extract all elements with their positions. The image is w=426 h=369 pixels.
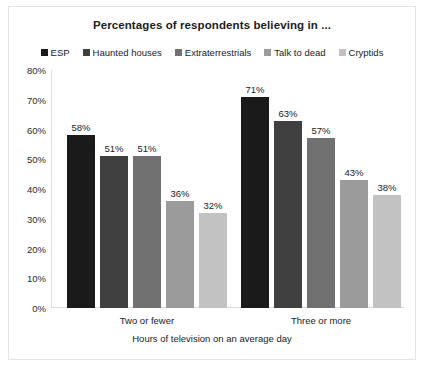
chart-card: Percentages of respondents believing in … — [8, 6, 416, 360]
plot-area: 80%70%60%50%40%30%20%10%0% 58%51%51%36%3… — [51, 70, 404, 308]
y-axis-tick-label: 10% — [27, 273, 46, 284]
legend-label: Haunted houses — [93, 48, 162, 58]
bar-cryptids[interactable]: 32% — [199, 70, 227, 308]
bar-value-label: 43% — [334, 167, 374, 178]
bar-talk-to-dead[interactable]: 43% — [340, 70, 368, 308]
legend-swatch-icon — [83, 49, 90, 56]
bar-value-label: 63% — [268, 108, 308, 119]
bar[interactable] — [133, 156, 161, 308]
bar[interactable] — [373, 195, 401, 308]
legend-swatch-icon — [264, 49, 271, 56]
bar-value-label: 32% — [193, 200, 233, 211]
category-label: Two or fewer — [67, 315, 227, 326]
legend-swatch-icon — [175, 49, 182, 56]
bar-value-label: 38% — [367, 182, 407, 193]
bar-group: 71%63%57%43%38%Three or more — [241, 70, 401, 308]
bar-haunted-houses[interactable]: 63% — [274, 70, 302, 308]
legend-item-extraterrestrials[interactable]: Extraterrestrials — [175, 48, 252, 58]
legend-item-haunted-houses[interactable]: Haunted houses — [83, 48, 162, 58]
legend-item-talk-to-dead[interactable]: Talk to dead — [264, 48, 325, 58]
bar-haunted-houses[interactable]: 51% — [100, 70, 128, 308]
legend-label: Cryptids — [349, 48, 384, 58]
y-axis-tick-label: 40% — [27, 184, 46, 195]
bar-value-label: 57% — [301, 125, 341, 136]
y-axis-tick-label: 0% — [32, 303, 46, 314]
x-axis-title: Hours of television on an average day — [9, 333, 415, 344]
bar[interactable] — [307, 138, 335, 308]
bar[interactable] — [67, 135, 95, 308]
y-axis-tick-label: 60% — [27, 124, 46, 135]
bar-esp[interactable]: 58% — [67, 70, 95, 308]
bar-value-label: 58% — [61, 122, 101, 133]
y-axis-tick-label: 20% — [27, 243, 46, 254]
legend-label: Talk to dead — [274, 48, 325, 58]
y-axis-tick-label: 30% — [27, 213, 46, 224]
y-axis-tick-label: 70% — [27, 94, 46, 105]
bar-group: 58%51%51%36%32%Two or fewer — [67, 70, 227, 308]
bar[interactable] — [199, 213, 227, 308]
bar-talk-to-dead[interactable]: 36% — [166, 70, 194, 308]
legend-label: Extraterrestrials — [185, 48, 252, 58]
bar-value-label: 71% — [235, 84, 275, 95]
bar-extraterrestrials[interactable]: 51% — [133, 70, 161, 308]
bar-cryptids[interactable]: 38% — [373, 70, 401, 308]
y-axis-tick-label: 80% — [27, 65, 46, 76]
bar[interactable] — [274, 121, 302, 308]
bar[interactable] — [100, 156, 128, 308]
bar-esp[interactable]: 71% — [241, 70, 269, 308]
bar-extraterrestrials[interactable]: 57% — [307, 70, 335, 308]
bar[interactable] — [340, 180, 368, 308]
bar[interactable] — [166, 201, 194, 308]
chart-title: Percentages of respondents believing in … — [9, 19, 415, 31]
bar-value-label: 36% — [160, 188, 200, 199]
y-axis-tick-label: 50% — [27, 154, 46, 165]
category-label: Three or more — [241, 315, 401, 326]
legend-swatch-icon — [339, 49, 346, 56]
y-axis-line — [51, 70, 52, 308]
chart-legend: ESP Haunted houses Extraterrestrials Tal… — [9, 48, 415, 58]
bar-value-label: 51% — [127, 143, 167, 154]
bar[interactable] — [241, 97, 269, 308]
legend-swatch-icon — [41, 49, 48, 56]
legend-item-esp[interactable]: ESP — [41, 48, 70, 58]
legend-label: ESP — [51, 48, 70, 58]
legend-item-cryptids[interactable]: Cryptids — [339, 48, 384, 58]
